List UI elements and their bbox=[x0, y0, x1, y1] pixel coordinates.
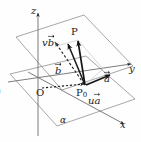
vector-b-letter: b bbox=[48, 37, 54, 48]
x-axis-label: x bbox=[120, 120, 126, 130]
point-p-label: P bbox=[71, 27, 78, 37]
vector-a-letter: a bbox=[94, 95, 100, 106]
point-p0-letter: P bbox=[76, 87, 83, 98]
vector-b-letter: b bbox=[55, 65, 61, 76]
vector-arrow-accent-icon bbox=[94, 92, 100, 96]
point-p0-subscript: 0 bbox=[83, 91, 87, 99]
y-axis-label: y bbox=[129, 64, 135, 74]
construction-guides bbox=[57, 40, 103, 84]
vector-a-label: a bbox=[104, 70, 110, 84]
vector-plane-figure: z y x O P P0 a b u bbox=[0, 0, 141, 142]
vector-arrow-accent-icon bbox=[104, 70, 110, 74]
point-p0-label: P0 bbox=[76, 88, 87, 99]
plane-alpha-label-lower: α bbox=[60, 116, 66, 125]
vector-b-label: b bbox=[55, 62, 61, 76]
vector-vb-label: v b bbox=[42, 34, 54, 48]
z-axis-label: z bbox=[31, 6, 36, 16]
origin-label: O bbox=[36, 88, 44, 98]
caption-paren-marker: ) bbox=[0, 86, 1, 96]
vector-a-letter: a bbox=[104, 73, 110, 84]
vector-arrow-accent-icon bbox=[48, 34, 54, 38]
vector-arrow-accent-icon bbox=[55, 62, 61, 66]
vector-ua-label: u a bbox=[88, 92, 100, 106]
